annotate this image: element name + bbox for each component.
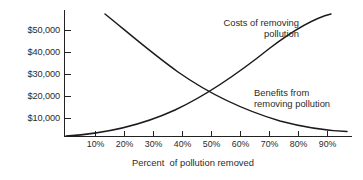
- series-annotation-benefits-line1: Benefits from: [254, 87, 362, 98]
- y-axis-label-50000: $50,000: [6, 26, 60, 35]
- x-axis-title: Percent of pollution removed: [88, 157, 298, 168]
- series-annotation-costs: Costs of removing pollution: [187, 17, 299, 39]
- series-annotation-costs-line2: pollution: [187, 28, 299, 39]
- x-axis-label-90: 90%: [307, 140, 348, 149]
- series-annotation-benefits: Benefits from removing pollution: [254, 87, 362, 109]
- y-axis-label-40000: $40,000: [6, 48, 60, 57]
- y-axis-ticks: [65, 31, 71, 119]
- x-axis-ticks: [96, 131, 328, 137]
- y-axis-label-20000: $20,000: [6, 92, 60, 101]
- series-annotation-costs-line1: Costs of removing: [187, 17, 299, 28]
- series-annotation-benefits-line2: removing pollution: [254, 98, 362, 109]
- pollution-cost-benefit-chart: $50,000 $40,000 $30,000 $20,000 $10,000 …: [0, 0, 363, 180]
- y-axis-label-30000: $30,000: [6, 70, 60, 79]
- y-axis-label-10000: $10,000: [6, 114, 60, 123]
